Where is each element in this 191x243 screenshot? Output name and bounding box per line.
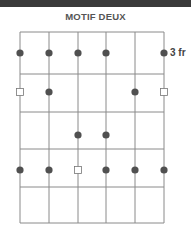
- note-dot-marker: [131, 166, 138, 173]
- fretboard-diagram: [0, 0, 191, 243]
- note-dot-marker: [160, 166, 167, 173]
- note-dot-marker: [102, 131, 109, 138]
- root-square-marker: [17, 89, 24, 96]
- fret-position-label: 3 fr: [170, 47, 186, 58]
- note-dot-marker: [16, 166, 23, 173]
- root-square-marker: [161, 89, 168, 96]
- note-dot-marker: [74, 131, 81, 138]
- note-dot-marker: [45, 166, 52, 173]
- root-square-marker: [75, 167, 82, 174]
- note-dot-marker: [160, 49, 167, 56]
- note-dot-marker: [102, 166, 109, 173]
- note-dot-marker: [45, 88, 52, 95]
- note-dot-marker: [131, 88, 138, 95]
- note-dot-marker: [16, 49, 23, 56]
- note-dot-marker: [45, 49, 52, 56]
- note-dot-marker: [102, 49, 109, 56]
- note-dot-marker: [74, 49, 81, 56]
